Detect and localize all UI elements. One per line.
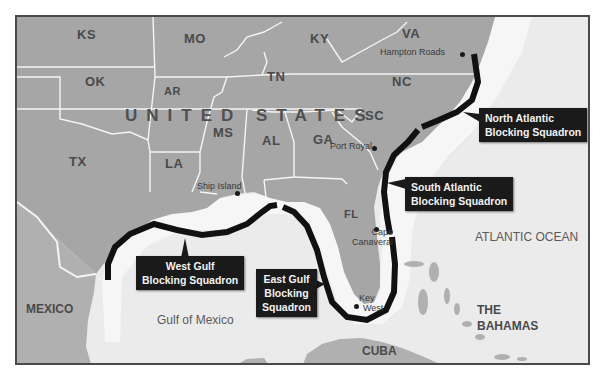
- water-label-atlantic-ocean: ATLANTIC OCEAN: [475, 230, 578, 244]
- place-label-port-royal: Port Royal: [330, 141, 372, 151]
- callout-east-gulf-squadron: East Gulf Blocking Squadron: [256, 269, 317, 317]
- callout-east-gulf-line3: Squadron: [262, 300, 311, 314]
- state-label-ms: MS: [213, 125, 234, 140]
- state-label-mo: MO: [184, 31, 206, 46]
- place-marker-cape-canaveral: [374, 227, 379, 232]
- water-label-gulf-of-mexico: Gulf of Mexico: [157, 313, 234, 327]
- country-label-bahamas: BAHAMAS: [477, 319, 538, 333]
- place-label-west: West: [363, 303, 383, 313]
- callout-east-gulf-line1: East Gulf: [262, 272, 311, 286]
- map-frame: KS MO KY VA OK AR TN NC SC MS AL GA TX L…: [15, 15, 590, 365]
- country-label-the: THE: [477, 303, 501, 317]
- state-label-ar: AR: [164, 85, 181, 97]
- place-marker-key-west: [354, 304, 359, 309]
- callout-north-atlantic-line1: North Atlantic: [485, 111, 581, 125]
- callout-south-atlantic-line1: South Atlantic: [411, 180, 507, 194]
- place-label-key-west: Key West: [359, 293, 383, 313]
- state-label-tx: TX: [69, 154, 87, 169]
- callout-west-gulf-line2: Blocking Squadron: [142, 273, 238, 287]
- state-label-fl: FL: [344, 208, 358, 220]
- place-label-hampton-roads: Hampton Roads: [380, 47, 445, 57]
- place-label-canaveral: Canaveral: [352, 237, 393, 247]
- callout-north-atlantic-line2: Blocking Squadron: [485, 125, 581, 139]
- state-label-tn: TN: [267, 69, 285, 84]
- place-marker-port-royal: [372, 146, 377, 151]
- callout-south-atlantic-squadron: South Atlantic Blocking Squadron: [405, 177, 513, 211]
- callout-west-gulf-line1: West Gulf: [142, 259, 238, 273]
- place-label-key: Key: [359, 293, 383, 303]
- place-marker-ship-island: [235, 191, 240, 196]
- callout-east-gulf-line2: Blocking: [262, 286, 311, 300]
- state-label-ky: KY: [310, 31, 329, 46]
- state-label-va: VA: [402, 26, 420, 41]
- place-marker-hampton-roads: [460, 52, 465, 57]
- state-label-ks: KS: [77, 27, 96, 42]
- country-label-mexico: MEXICO: [26, 302, 73, 316]
- state-label-nc: NC: [392, 74, 412, 89]
- state-label-ok: OK: [85, 74, 106, 89]
- state-label-al: AL: [262, 133, 280, 148]
- callout-west-gulf-squadron: West Gulf Blocking Squadron: [136, 256, 244, 290]
- callout-south-atlantic-line2: Blocking Squadron: [411, 194, 507, 208]
- state-label-la: LA: [165, 156, 183, 171]
- country-label-united-states: UNITED STATES: [125, 106, 375, 126]
- callout-north-atlantic-squadron: North Atlantic Blocking Squadron: [479, 108, 587, 142]
- country-label-cuba: CUBA: [362, 344, 397, 358]
- place-label-ship-island: Ship Island: [197, 181, 242, 191]
